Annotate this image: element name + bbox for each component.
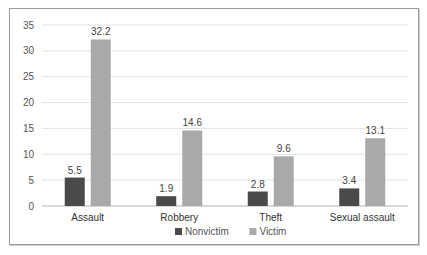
bar-chart: 051015202530355.532.2Assault1.914.6Robbe… xyxy=(0,0,427,255)
data-label: 9.6 xyxy=(277,143,291,154)
bar-victim xyxy=(91,39,111,206)
data-label: 1.9 xyxy=(159,183,173,194)
y-tick-label: 15 xyxy=(23,123,35,134)
y-tick-label: 20 xyxy=(23,97,35,108)
y-tick-label: 25 xyxy=(23,71,35,82)
bar-victim xyxy=(274,156,294,206)
bar-nonvictim xyxy=(65,178,85,206)
legend-swatch-victim xyxy=(249,228,256,235)
y-tick-label: 30 xyxy=(23,45,35,56)
legend-label-nonvictim: Nonvictim xyxy=(185,226,229,237)
bar-victim xyxy=(182,130,202,206)
data-label: 5.5 xyxy=(68,165,82,176)
bar-nonvictim xyxy=(156,196,176,206)
data-label: 14.6 xyxy=(183,117,203,128)
data-label: 32.2 xyxy=(91,26,111,37)
x-category-label: Robbery xyxy=(160,212,198,223)
y-tick-label: 10 xyxy=(23,149,35,160)
legend-label-victim: Victim xyxy=(259,226,286,237)
bar-victim xyxy=(365,138,385,206)
y-tick-label: 0 xyxy=(28,201,34,212)
data-label: 3.4 xyxy=(342,175,356,186)
data-label: 13.1 xyxy=(366,125,386,136)
bar-nonvictim xyxy=(339,188,359,206)
x-category-label: Theft xyxy=(259,212,282,223)
y-tick-label: 35 xyxy=(23,20,35,31)
bar-nonvictim xyxy=(248,192,268,206)
y-tick-label: 5 xyxy=(28,175,34,186)
legend-swatch-nonvictim xyxy=(175,228,182,235)
x-category-label: Sexual assault xyxy=(330,212,395,223)
data-label: 2.8 xyxy=(251,179,265,190)
x-category-label: Assault xyxy=(71,212,104,223)
